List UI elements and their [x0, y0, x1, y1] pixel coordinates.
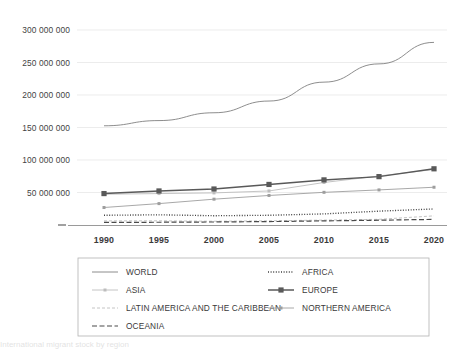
ytick-label-150m: 150 000 000 — [22, 123, 70, 133]
data-point-marker — [213, 198, 216, 201]
legend-label: ASIA — [126, 285, 146, 295]
ytick-label-300m: 300 000 000 — [22, 25, 70, 35]
legend-label: WORLD — [126, 267, 158, 277]
legend-swatch-marker — [104, 289, 107, 292]
legend-label: NORTHERN AMERICA — [302, 303, 391, 313]
legend-swatch-marker — [278, 287, 283, 292]
data-point-marker — [431, 166, 436, 171]
legend-layer: WORLDAFRICAASIAEUROPELATIN AMERICA AND T… — [92, 267, 391, 331]
gridlines — [77, 30, 447, 193]
series-line — [104, 42, 434, 125]
xtick-label-2015: 2015 — [369, 235, 389, 245]
data-point-marker — [101, 191, 106, 196]
x-axis-labels: 1990 1995 2000 2005 2010 2015 2020 — [94, 235, 444, 245]
xtick-label-2000: 2000 — [204, 235, 224, 245]
ytick-label-100m: 100 000 000 — [22, 155, 70, 165]
data-point-marker — [323, 191, 326, 194]
data-point-marker — [211, 186, 216, 191]
data-point-marker — [158, 202, 161, 205]
data-point-marker — [156, 188, 161, 193]
data-point-marker — [321, 177, 326, 182]
data-point-marker — [376, 174, 381, 179]
legend-item-oceania[interactable]: OCEANIA — [92, 321, 165, 331]
ytick-label-250m: 250 000 000 — [22, 58, 70, 68]
series-world — [104, 42, 434, 125]
series-africa — [104, 209, 434, 216]
xtick-label-2005: 2005 — [259, 235, 279, 245]
ytick-label-200m: 200 000 000 — [22, 90, 70, 100]
xtick-label-1990: 1990 — [94, 235, 114, 245]
legend-label: OCEANIA — [126, 321, 165, 331]
chart-canvas: 300 000 000 250 000 000 200 000 000 150 … — [0, 0, 455, 354]
ytick-label-50m: 50 000 000 — [27, 188, 70, 198]
source-caption: International migrant stock by region — [0, 340, 455, 354]
y-axis-labels: 300 000 000 250 000 000 200 000 000 150 … — [22, 25, 70, 198]
data-point-marker — [213, 191, 216, 194]
data-point-marker — [266, 182, 271, 187]
data-point-marker — [378, 188, 381, 191]
legend-label: LATIN AMERICA AND THE CARIBBEAN — [126, 303, 281, 313]
data-point-marker — [268, 194, 271, 197]
legend-item-world[interactable]: WORLD — [92, 267, 158, 277]
legend-swatch-marker — [280, 307, 283, 310]
xtick-label-2010: 2010 — [314, 235, 334, 245]
xtick-label-2020: 2020 — [424, 235, 444, 245]
migration-line-chart: 300 000 000 250 000 000 200 000 000 150 … — [0, 0, 455, 354]
xtick-label-1995: 1995 — [149, 235, 169, 245]
legend-item-northern-america[interactable]: NORTHERN AMERICA — [268, 303, 391, 313]
legend-item-africa[interactable]: AFRICA — [268, 267, 334, 277]
data-point-marker — [433, 186, 436, 189]
series-line — [104, 209, 434, 216]
legend-item-latin-america[interactable]: LATIN AMERICA AND THE CARIBBEAN — [92, 303, 281, 313]
legend-item-europe[interactable]: EUROPE — [268, 285, 338, 295]
series-northern-america — [103, 186, 436, 209]
legend-item-asia[interactable]: ASIA — [92, 285, 146, 295]
data-point-marker — [103, 206, 106, 209]
legend-label: AFRICA — [302, 267, 334, 277]
legend-label: EUROPE — [302, 285, 338, 295]
series-layer — [101, 42, 436, 222]
data-point-marker — [268, 189, 271, 192]
